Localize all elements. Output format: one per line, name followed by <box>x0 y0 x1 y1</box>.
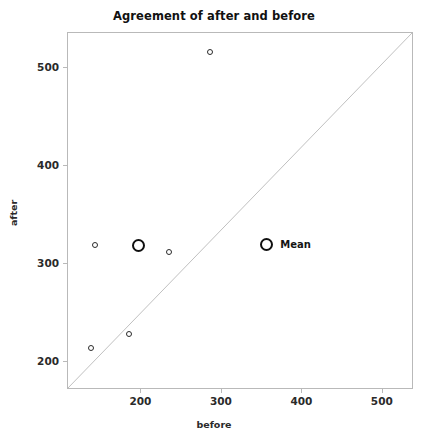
x-axis-label: before <box>0 419 428 430</box>
chart-title: Agreement of after and before <box>0 9 428 23</box>
legend-label-mean: Mean <box>280 239 311 250</box>
x-tick-mark <box>301 388 302 393</box>
data-point-mean <box>132 239 145 252</box>
x-tick-label: 300 <box>210 395 232 407</box>
y-tick-mark <box>63 67 68 68</box>
y-tick-label: 500 <box>37 61 59 73</box>
y-tick-label: 300 <box>37 257 59 269</box>
y-tick-mark <box>63 361 68 362</box>
x-tick-mark <box>140 388 141 393</box>
plot-area: 200300400500 200300400500 Mean <box>67 32 413 389</box>
y-tick-label: 400 <box>37 159 59 171</box>
x-tick-label: 500 <box>371 395 393 407</box>
y-tick-mark <box>63 165 68 166</box>
legend: Mean <box>260 238 311 251</box>
x-tick-label: 400 <box>290 395 312 407</box>
x-tick-mark <box>382 388 383 393</box>
plot-inner: 200300400500 200300400500 Mean <box>68 33 412 388</box>
scatter-plot-figure: Agreement of after and before after befo… <box>0 0 428 446</box>
y-tick-label: 200 <box>37 355 59 367</box>
identity-reference-line <box>68 33 412 388</box>
data-point <box>92 242 98 248</box>
x-tick-mark <box>221 388 222 393</box>
y-axis-label: after <box>8 200 19 226</box>
x-tick-label: 200 <box>129 395 151 407</box>
legend-marker-mean-icon <box>260 238 273 251</box>
y-tick-mark <box>63 263 68 264</box>
data-point <box>88 345 94 351</box>
